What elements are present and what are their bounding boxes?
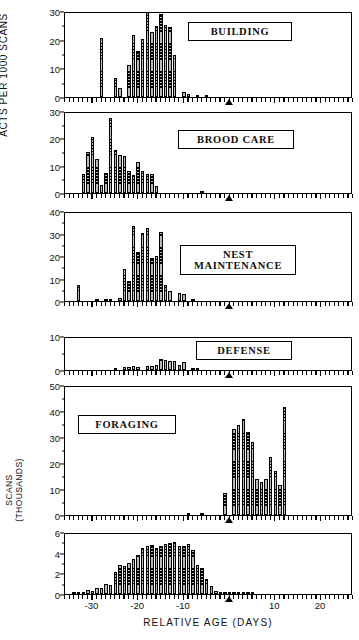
- x-minor-tick: [242, 516, 243, 520]
- x-minor-tick: [270, 371, 271, 375]
- bar: [219, 592, 222, 594]
- x-minor-tick: [293, 98, 294, 102]
- bar: [141, 171, 144, 193]
- x-minor-tick: [210, 194, 211, 198]
- x-minor-tick: [73, 595, 74, 599]
- bar: [109, 299, 112, 301]
- x-minor-tick: [69, 371, 70, 375]
- bar: [146, 546, 149, 594]
- y-minor-tick: [62, 153, 65, 154]
- x-minor-tick: [155, 371, 156, 375]
- x-major-tick: [320, 371, 321, 376]
- bar: [150, 32, 153, 97]
- x-minor-tick: [82, 302, 83, 306]
- x-minor-tick: [247, 194, 248, 198]
- y-tick-label: 0: [26, 93, 64, 104]
- bar: [123, 269, 126, 301]
- x-minor-tick: [146, 595, 147, 599]
- y-tick-label: 10: [26, 274, 64, 285]
- x-minor-tick: [347, 595, 348, 599]
- panel-tag-nest-maintenance: NESTMAINTENANCE: [180, 245, 296, 275]
- x-minor-tick: [306, 371, 307, 375]
- x-tick-label: -20: [130, 600, 144, 611]
- y-tick-mark: [60, 11, 64, 12]
- x-minor-tick: [297, 98, 298, 102]
- x-minor-tick: [311, 371, 312, 375]
- x-minor-tick: [128, 98, 129, 102]
- x-minor-tick: [160, 595, 161, 599]
- x-minor-tick: [297, 595, 298, 599]
- y-tick-label: 30: [26, 7, 64, 18]
- bar: [136, 51, 139, 97]
- x-minor-tick: [187, 371, 188, 375]
- bar: [159, 232, 162, 301]
- x-tick-label: 10: [269, 600, 280, 611]
- x-minor-tick: [347, 98, 348, 102]
- bar: [187, 513, 190, 515]
- x-minor-tick: [96, 371, 97, 375]
- x-minor-tick: [101, 302, 102, 306]
- y-tick-label: 20: [26, 35, 64, 46]
- y-tick-mark: [60, 574, 64, 575]
- x-minor-tick: [165, 516, 166, 520]
- x-minor-tick: [215, 194, 216, 198]
- x-minor-tick: [160, 302, 161, 306]
- x-minor-tick: [123, 595, 124, 599]
- x-major-tick: [320, 98, 321, 103]
- x-minor-tick: [64, 371, 65, 375]
- y-minor-tick: [62, 354, 65, 355]
- panel-tag-line: NEST: [188, 249, 288, 260]
- x-minor-tick: [146, 98, 147, 102]
- bar: [232, 429, 235, 515]
- x-minor-tick: [233, 98, 234, 102]
- x-major-tick: [274, 194, 275, 199]
- bar: [127, 281, 130, 301]
- bar: [104, 173, 107, 194]
- x-minor-tick: [311, 516, 312, 520]
- y-tick-mark: [60, 166, 64, 167]
- x-minor-tick: [343, 595, 344, 599]
- x-minor-tick: [352, 595, 353, 599]
- x-minor-tick: [279, 194, 280, 198]
- bar: [191, 550, 194, 594]
- bar: [200, 191, 203, 193]
- scans-label-line1: SCANS: [4, 455, 14, 525]
- x-minor-tick: [178, 516, 179, 520]
- x-minor-tick: [96, 98, 97, 102]
- x-minor-tick: [178, 194, 179, 198]
- x-minor-tick: [169, 516, 170, 520]
- x-minor-tick: [110, 98, 111, 102]
- x-minor-tick: [288, 371, 289, 375]
- x-major-tick: [91, 516, 92, 521]
- x-minor-tick: [142, 371, 143, 375]
- x-minor-tick: [338, 595, 339, 599]
- x-minor-tick: [325, 371, 326, 375]
- x-minor-tick: [128, 516, 129, 520]
- x-minor-tick: [87, 98, 88, 102]
- y-minor-tick: [62, 399, 65, 400]
- x-minor-tick: [251, 98, 252, 102]
- x-minor-tick: [315, 194, 316, 198]
- x-minor-tick: [302, 595, 303, 599]
- x-minor-tick: [206, 302, 207, 306]
- bar: [168, 291, 171, 301]
- x-minor-tick: [219, 516, 220, 520]
- x-minor-tick: [302, 371, 303, 375]
- panel-tag-line: MAINTENANCE: [188, 260, 288, 271]
- x-minor-tick: [133, 194, 134, 198]
- x-minor-tick: [283, 595, 284, 599]
- x-major-tick: [274, 371, 275, 376]
- y-minor-tick: [62, 451, 65, 452]
- triangle-marker: [225, 303, 233, 309]
- panel-tag-line: FORAGING: [86, 419, 168, 430]
- bar: [127, 171, 130, 193]
- bar: [200, 568, 203, 594]
- bar: [205, 95, 208, 97]
- x-major-tick: [274, 516, 275, 521]
- x-minor-tick: [101, 595, 102, 599]
- x-minor-tick: [78, 194, 79, 198]
- y-tick-mark: [60, 489, 64, 490]
- x-minor-tick: [347, 516, 348, 520]
- panel-foraging: 01020304050: [64, 386, 352, 516]
- x-minor-tick: [233, 302, 234, 306]
